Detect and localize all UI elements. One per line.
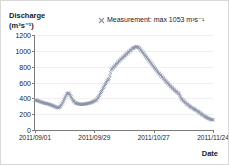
data-series-markers bbox=[35, 35, 213, 130]
legend-label: Measurement: max 1053 m³s⁻¹ bbox=[107, 16, 204, 24]
y-tick-label: 600 bbox=[19, 79, 31, 86]
discharge-chart-figure: Discharge (m³s⁻¹) Measurement: max 1053 … bbox=[0, 0, 229, 165]
x-tick-mark bbox=[94, 130, 95, 133]
x-tick-label: 2011/11/24 bbox=[197, 134, 229, 141]
x-tick-label: 2011/09/29 bbox=[78, 134, 110, 141]
x-tick-mark bbox=[154, 130, 155, 133]
x-tick-mark bbox=[35, 130, 36, 133]
y-tick-label: 0 bbox=[27, 127, 31, 134]
x-tick-label: 2011/10/27 bbox=[138, 134, 170, 141]
y-tick-label: 1200 bbox=[15, 32, 31, 39]
x-cross-marker-icon bbox=[98, 17, 105, 24]
x-tick-mark bbox=[213, 130, 214, 133]
x-axis-title: Date bbox=[202, 149, 218, 158]
plot-area: 020040060080010001200 2011/09/012011/09/… bbox=[34, 35, 213, 131]
series-measurement bbox=[34, 45, 215, 121]
x-tick-label: 2011/09/01 bbox=[19, 134, 51, 141]
y-axis-title-line1: Discharge bbox=[9, 11, 45, 20]
y-tick-label: 200 bbox=[19, 111, 31, 118]
y-axis-title: Discharge (m³s⁻¹) bbox=[9, 11, 45, 31]
y-tick-label: 1000 bbox=[15, 47, 31, 54]
y-tick-label: 400 bbox=[19, 95, 31, 102]
chart-legend: Measurement: max 1053 m³s⁻¹ bbox=[98, 16, 204, 24]
y-tick-label: 800 bbox=[19, 63, 31, 70]
y-axis-title-line2: (m³s⁻¹) bbox=[9, 21, 45, 31]
